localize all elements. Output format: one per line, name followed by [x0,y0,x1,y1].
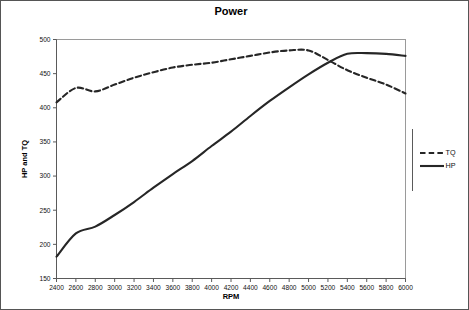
x-tick-label: 3200 [127,284,142,291]
x-tick-label: 5600 [359,284,374,291]
x-tick-label: 4800 [282,284,297,291]
y-tick-label: 200 [39,241,50,248]
legend-label-hp: HP [446,161,456,170]
y-tick-label: 350 [39,138,50,145]
plot-area [57,40,406,279]
x-tick-label: 3600 [165,284,180,291]
x-tick-label: 2600 [69,284,84,291]
y-tick-label: 400 [39,104,50,111]
legend-label-tq: TQ [446,148,456,157]
x-tick-label: 4400 [243,284,258,291]
x-tick-label: 3000 [107,284,122,291]
x-tick-label: 3400 [146,284,161,291]
y-axis-ticks: 150200250300350400450500 [39,36,56,282]
x-tick-label: 5000 [301,284,316,291]
chart-title: Power [214,5,248,17]
x-axis-ticks: 2400260028003000320034003600380040004200… [49,279,413,292]
x-tick-label: 5800 [379,284,394,291]
chart-legend: TQ HP [420,148,456,170]
y-tick-label: 450 [39,70,50,77]
x-tick-label: 2800 [88,284,103,291]
x-tick-label: 2400 [49,284,64,291]
x-tick-label: 5200 [321,284,336,291]
y-axis-title: HP and TQ [20,140,29,178]
x-tick-label: 3800 [185,284,200,291]
x-tick-label: 4000 [204,284,219,291]
x-tick-label: 4200 [224,284,239,291]
x-tick-label: 4600 [262,284,277,291]
x-tick-label: 6000 [398,284,413,291]
x-axis-title: RPM [223,292,240,301]
y-tick-label: 300 [39,172,50,179]
power-chart: Power 150200250300350400450500 240026002… [1,1,469,309]
y-tick-label: 500 [39,36,50,43]
y-tick-label: 150 [39,275,50,282]
x-tick-label: 5400 [340,284,355,291]
y-tick-label: 250 [39,207,50,214]
chart-frame: Power 150200250300350400450500 240026002… [0,0,469,310]
